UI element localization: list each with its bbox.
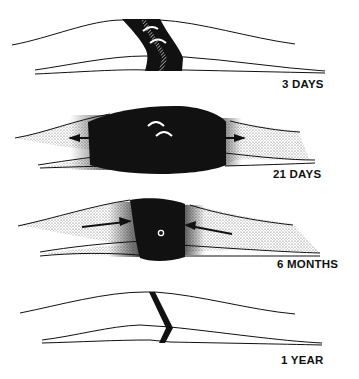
panel-3-days — [12, 19, 325, 74]
fracture-healing-diagram: 3 DAYS 21 DAYS 6 MONTHS 1 YEAR — [0, 0, 359, 379]
label-1-year: 1 YEAR — [281, 354, 324, 366]
label-21-days: 21 DAYS — [273, 168, 321, 180]
panel-6-months — [18, 198, 320, 261]
panel-1-year — [20, 292, 322, 345]
healed-fracture-line — [149, 292, 173, 343]
label-6-months: 6 MONTHS — [277, 258, 338, 270]
bone-lower-outline-outer — [42, 340, 322, 345]
panel-21-days — [15, 106, 315, 174]
label-3-days: 3 DAYS — [282, 78, 324, 90]
bone-lower-outline-inner — [42, 325, 322, 343]
callus-mass — [88, 106, 226, 174]
